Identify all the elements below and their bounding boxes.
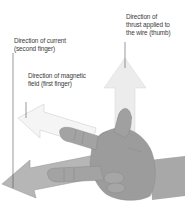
current-label: Direction of current (second finger)	[14, 37, 66, 53]
field-label: Direction of magnetic field (first finge…	[28, 72, 86, 88]
thrust-label: Direction of thrust applied to the wire …	[126, 13, 171, 37]
